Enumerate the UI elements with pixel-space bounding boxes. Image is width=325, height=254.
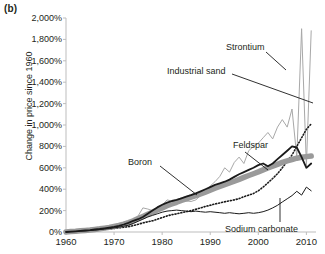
leader-line-strontium: [266, 52, 286, 70]
annotation-strontium: Strontium: [226, 42, 265, 52]
series-line-feldspar: [66, 156, 311, 232]
leader-line-industrial-sand: [232, 74, 313, 103]
annotation-sodium-carbonate: Sodium carbonate: [225, 224, 298, 234]
annotation-boron: Boron: [128, 157, 152, 167]
leader-line-feldspar: [245, 152, 268, 170]
leader-line-boron: [160, 166, 197, 195]
chart-figure: (b) Change in price since 1960 0%200%400…: [0, 0, 325, 254]
series-line-industrial-sand: [66, 124, 311, 232]
annotation-feldspar: Feldspar: [233, 140, 268, 150]
series-line-boron: [66, 146, 311, 232]
annotation-industrial-sand: Industrial sand: [167, 66, 226, 76]
plot-area: [0, 0, 325, 254]
